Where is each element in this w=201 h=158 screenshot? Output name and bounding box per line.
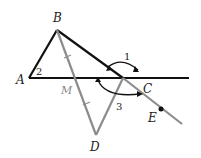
label-m: M xyxy=(60,84,73,97)
angle-1-arc xyxy=(108,62,138,70)
label-d: D xyxy=(89,140,100,154)
segment-ab xyxy=(29,30,57,78)
geometry-figure: B A C D E M 1 2 3 xyxy=(0,0,201,158)
label-e: E xyxy=(147,111,157,125)
triangle-diagram: B A C D E M 1 2 3 xyxy=(0,0,201,158)
label-angle-1: 1 xyxy=(124,51,130,62)
segment-bd xyxy=(57,30,96,135)
label-b: B xyxy=(52,11,62,25)
point-e xyxy=(159,107,164,112)
label-angle-2: 2 xyxy=(36,66,42,77)
label-a: A xyxy=(15,73,25,87)
label-c: C xyxy=(143,82,152,96)
label-angle-3: 3 xyxy=(116,101,122,112)
